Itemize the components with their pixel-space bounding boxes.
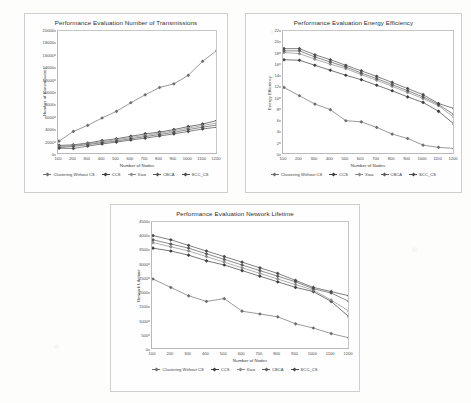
legend-item-clustering-without-cs[interactable]: Clustering Without CS xyxy=(152,367,203,372)
series-line xyxy=(153,248,349,317)
y-tick-label: 6 xyxy=(277,118,279,123)
x-tick-label: 600 xyxy=(238,351,245,356)
y-tick-mark xyxy=(148,321,150,322)
series-marker xyxy=(187,253,191,257)
y-tick-label: 12000 xyxy=(43,77,54,82)
series-scc-cs xyxy=(151,234,349,298)
legend-marker-icon xyxy=(381,172,389,177)
series-marker xyxy=(169,286,173,290)
legend-item-cbca[interactable]: CBCA xyxy=(381,172,403,177)
legend-item-clustering-without-cs[interactable]: Clustering Without CS xyxy=(271,172,322,177)
y-tick-label: 4000 xyxy=(45,127,54,132)
x-tick-label: 800 xyxy=(273,351,280,356)
series-marker xyxy=(169,249,173,253)
series-marker xyxy=(276,315,280,319)
series-marker xyxy=(276,272,280,276)
legend-item-ccs[interactable]: CCS xyxy=(211,367,230,372)
series-marker xyxy=(205,249,209,253)
legend-item-scc-cs[interactable]: SCC_CS xyxy=(291,367,318,372)
plot-area-lifetime xyxy=(151,221,349,349)
y-tick-mark xyxy=(279,120,281,121)
y-tick-mark xyxy=(148,221,150,222)
y-tick-mark xyxy=(279,131,281,132)
legend-item-scc-cs[interactable]: SCC_CS xyxy=(409,172,436,177)
series-marker xyxy=(86,123,90,127)
series-marker xyxy=(406,87,410,91)
y-tick-mark xyxy=(54,104,56,105)
series-line xyxy=(284,60,454,124)
series-marker xyxy=(172,82,176,86)
series-clustering-without-cs xyxy=(282,86,454,151)
series-marker xyxy=(421,101,425,105)
legend-item-clustering-without-cs[interactable]: Clustering Without CS xyxy=(43,172,94,177)
series-marker xyxy=(158,86,162,90)
series-marker xyxy=(390,81,394,85)
series-marker xyxy=(258,266,262,270)
series-marker xyxy=(282,86,286,90)
y-tick-label: 16000 xyxy=(43,52,54,57)
series-marker xyxy=(344,73,348,77)
series-marker xyxy=(390,132,394,136)
y-tick-label: 4 xyxy=(277,129,279,134)
legend-label: CCS xyxy=(112,172,121,177)
series-marker xyxy=(215,119,217,123)
legend-marker-icon xyxy=(182,172,190,177)
series-marker xyxy=(347,300,349,304)
y-tick-mark xyxy=(279,30,281,31)
legend-item-cbca[interactable]: CBCA xyxy=(262,367,284,372)
legend-marker-icon xyxy=(409,172,417,177)
y-tick-mark xyxy=(148,235,150,236)
x-axis-label-energy: Number of Nodes xyxy=(282,163,454,168)
y-tick-label: 4000 xyxy=(139,233,148,238)
y-axis-ticks-transmissions: 0200040006000800010000120001400016000180… xyxy=(36,30,56,154)
series-marker xyxy=(100,116,104,120)
legend-label: CCS xyxy=(221,367,230,372)
series-marker xyxy=(222,255,226,259)
legend-item-ccs[interactable]: CCS xyxy=(329,172,348,177)
legend-marker-icon xyxy=(211,367,219,372)
series-marker xyxy=(347,336,349,340)
series-marker xyxy=(298,47,302,51)
x-tick-label: 400 xyxy=(326,156,333,161)
series-line xyxy=(153,279,349,338)
y-tick-mark xyxy=(148,249,150,250)
y-tick-label: 18 xyxy=(274,50,279,55)
legend-label: Clustering Without CS xyxy=(281,172,322,177)
series-marker xyxy=(151,234,155,238)
y-tick-mark xyxy=(54,129,56,130)
series-marker xyxy=(205,259,209,263)
series-marker xyxy=(437,146,441,150)
series-marker xyxy=(215,125,217,129)
series-marker xyxy=(359,69,363,73)
series-marker xyxy=(151,238,155,242)
series-cbca xyxy=(282,49,454,116)
x-tick-label: 600 xyxy=(126,156,133,161)
legend-label: CBCA xyxy=(272,367,284,372)
x-tick-label: 400 xyxy=(98,156,105,161)
series-marker xyxy=(313,63,317,67)
legend-item-xiao[interactable]: Xiao xyxy=(355,172,373,177)
series-marker xyxy=(215,121,217,125)
series-marker xyxy=(375,126,379,130)
x-tick-label: 900 xyxy=(169,156,176,161)
series-marker xyxy=(312,326,316,330)
y-tick-label: 22 xyxy=(274,28,279,33)
legend-label: Xiao xyxy=(365,172,373,177)
y-tick-label: 4500 xyxy=(139,219,148,224)
y-tick-label: 20000 xyxy=(43,28,54,33)
legend-marker-icon xyxy=(271,172,279,177)
y-tick-mark xyxy=(54,80,56,81)
x-tick-label: 900 xyxy=(291,351,298,356)
y-tick-mark xyxy=(148,264,150,265)
series-xiao xyxy=(151,241,349,313)
legend-item-xiao[interactable]: Xiao xyxy=(237,367,255,372)
series-xiao xyxy=(57,121,217,148)
series-layer-energy xyxy=(283,31,454,154)
series-marker xyxy=(375,75,379,79)
legend-item-cbca[interactable]: CBCA xyxy=(153,172,175,177)
legend-item-scc-cs[interactable]: SCC_CS xyxy=(182,172,209,177)
legend-item-ccs[interactable]: CCS xyxy=(102,172,121,177)
legend-item-xiao[interactable]: Xiao xyxy=(128,172,146,177)
y-tick-mark xyxy=(54,92,56,93)
series-line xyxy=(153,236,349,296)
